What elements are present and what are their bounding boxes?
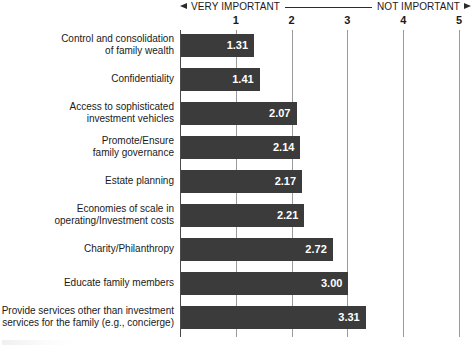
tick-label-1: 1 (233, 13, 239, 28)
scale-endpoint-row: VERY IMPORTANT NOT IMPORTANT (180, 0, 471, 14)
bar-value-label: 2.14 (273, 136, 300, 159)
category-label: Confidentiality (111, 73, 174, 85)
bar: 2.07 (181, 102, 297, 125)
not-important-label: NOT IMPORTANT (372, 0, 471, 14)
category-axis-labels: Control and consolidation of family weal… (0, 30, 178, 337)
scale-header: VERY IMPORTANT NOT IMPORTANT 12345 (180, 0, 471, 28)
gridline-5 (459, 30, 460, 337)
category-label: Control and consolidation of family weal… (61, 33, 174, 57)
scan-artifact (2, 340, 72, 345)
bar-value-label: 2.17 (275, 170, 302, 193)
bar-value-label: 2.21 (277, 204, 304, 227)
category-label: Economies of scale in operating/Investme… (54, 203, 174, 227)
category-label: Educate family members (64, 277, 174, 289)
bar-value-label: 3.31 (338, 306, 365, 329)
bar-value-label: 2.72 (305, 238, 332, 261)
category-label: Promote/Ensure family governance (93, 135, 174, 159)
category-label: Estate planning (105, 175, 174, 187)
bar: 1.41 (181, 68, 260, 91)
bar: 2.14 (181, 136, 300, 159)
bar-value-label: 1.31 (227, 34, 254, 57)
tick-label-5: 5 (456, 13, 462, 28)
bar: 2.17 (181, 170, 302, 193)
arrow-right-icon (464, 3, 471, 9)
tick-label-2: 2 (289, 13, 295, 28)
tick-label-4: 4 (400, 13, 406, 28)
bar: 3.00 (181, 272, 348, 295)
category-label: Access to sophisticated investment vehic… (70, 101, 175, 125)
bar: 2.21 (181, 204, 304, 227)
bar: 3.31 (181, 306, 366, 329)
very-important-label: VERY IMPORTANT (180, 0, 285, 14)
x-axis-tick-labels: 12345 (180, 13, 471, 28)
chart-plot-area: 1.311.412.072.142.172.212.723.003.31 (180, 30, 471, 337)
gridline-4 (403, 30, 404, 337)
arrow-left-icon (180, 3, 187, 9)
tick-label-3: 3 (344, 13, 350, 28)
bar-value-label: 3.00 (321, 272, 348, 295)
bar-value-label: 1.41 (232, 68, 259, 91)
category-label: Provide services other than investment s… (2, 305, 174, 329)
bar: 2.72 (181, 238, 333, 261)
bar: 1.31 (181, 34, 254, 57)
bar-value-label: 2.07 (269, 102, 296, 125)
category-label: Charity/Philanthropy (84, 243, 174, 255)
